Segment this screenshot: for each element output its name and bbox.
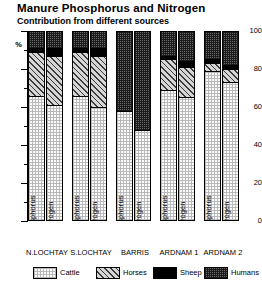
group-caption-s-lochtay: S.LOCHTAY — [66, 248, 116, 257]
segment-cattle — [47, 106, 62, 220]
bar-group-ardnam-1: PhosphorusNitrogen — [160, 31, 198, 221]
segment-sheep — [47, 49, 62, 57]
chart-legend: CattleHorsesSheepHumans — [0, 266, 262, 284]
bar-group-ardnam-2: PhosphorusNitrogen — [204, 31, 242, 221]
y-tick-minor — [24, 164, 27, 165]
y-tick-0 — [21, 221, 27, 222]
group-caption-barris: BARRIS — [110, 248, 160, 257]
segment-cattle — [29, 97, 44, 221]
legend-label-cattle: Cattle — [60, 268, 80, 277]
segment-cattle — [117, 112, 132, 220]
y-tick-40 — [21, 145, 27, 146]
segment-cattle — [73, 97, 88, 221]
segment-humans — [135, 31, 150, 131]
chart-page: Manure Phosphorus and Nitrogen Contribut… — [0, 0, 262, 293]
legend-item-horses[interactable]: Horses — [96, 266, 147, 279]
bar-ardnam-2-phosphorus[interactable]: Phosphorus — [204, 31, 221, 221]
y-tick-80 — [21, 69, 27, 70]
segment-horses — [205, 64, 220, 72]
segment-sheep — [223, 66, 238, 70]
legend-swatch-sheep — [153, 267, 177, 279]
y-tick-60 — [21, 107, 27, 108]
y-tick-20 — [21, 183, 27, 184]
bar-barris-nitrogen[interactable]: Nitrogen — [134, 31, 151, 221]
bar-group-n-lochtay: PhosphorusNitrogen — [28, 31, 66, 221]
chart-subtitle: Contribution from different sources — [17, 16, 169, 26]
bar-n-lochtay-nitrogen[interactable]: Nitrogen — [46, 31, 63, 221]
group-caption-n-lochtay: N.LOCHTAY — [22, 248, 72, 257]
segment-cattle — [91, 108, 106, 220]
legend-swatch-cattle — [33, 267, 57, 279]
y-tick-100 — [21, 31, 27, 32]
legend-item-humans[interactable]: Humans — [204, 266, 259, 279]
segment-humans — [205, 31, 220, 60]
segment-horses — [223, 70, 238, 83]
segment-sheep — [205, 60, 220, 64]
segment-cattle — [223, 83, 238, 220]
group-caption-ardnam-1: ARDNAM 1 — [154, 248, 204, 257]
bar-ardnam-1-phosphorus[interactable]: Phosphorus — [160, 31, 177, 221]
bar-s-lochtay-nitrogen[interactable]: Nitrogen — [90, 31, 107, 221]
segment-cattle — [135, 131, 150, 220]
segment-sheep — [29, 49, 44, 53]
segment-horses — [161, 60, 176, 90]
segment-sheep — [91, 49, 106, 57]
y-axis-unit-label: % — [0, 40, 22, 49]
bar-group-barris: PhosphorusNitrogen — [116, 31, 154, 221]
segment-horses — [73, 53, 88, 97]
segment-cattle — [179, 98, 194, 220]
legend-swatch-humans — [204, 267, 228, 279]
segment-sheep — [161, 57, 176, 61]
plot-area: PhosphorusNitrogenPhosphorusNitrogenPhos… — [28, 31, 256, 221]
segment-humans — [117, 31, 132, 112]
segment-cattle — [161, 91, 176, 220]
bar-ardnam-2-nitrogen[interactable]: Nitrogen — [222, 31, 239, 221]
legend-item-cattle[interactable]: Cattle — [33, 266, 80, 279]
legend-label-sheep: Sheep — [180, 268, 202, 277]
chart-title: Manure Phosphorus and Nitrogen — [17, 2, 205, 14]
segment-horses — [179, 68, 194, 98]
segment-humans — [47, 31, 62, 49]
segment-humans — [179, 31, 194, 62]
y-tick-minor — [24, 202, 27, 203]
segment-sheep — [179, 62, 194, 68]
segment-humans — [29, 31, 44, 49]
bar-barris-phosphorus[interactable]: Phosphorus — [116, 31, 133, 221]
segment-horses — [91, 57, 106, 108]
legend-swatch-horses — [96, 267, 120, 279]
bar-n-lochtay-phosphorus[interactable]: Phosphorus — [28, 31, 45, 221]
bar-s-lochtay-phosphorus[interactable]: Phosphorus — [72, 31, 89, 221]
segment-sheep — [73, 49, 88, 53]
segment-humans — [73, 31, 88, 49]
y-tick-minor — [24, 50, 27, 51]
group-caption-ardnam-2: ARDNAM 2 — [198, 248, 248, 257]
segment-horses — [47, 57, 62, 106]
y-tick-minor — [24, 88, 27, 89]
y-tick-minor — [24, 126, 27, 127]
legend-label-horses: Horses — [123, 268, 147, 277]
legend-item-sheep[interactable]: Sheep — [153, 266, 202, 279]
legend-label-humans: Humans — [231, 268, 259, 277]
segment-cattle — [205, 72, 220, 220]
segment-humans — [223, 31, 238, 66]
bar-ardnam-1-nitrogen[interactable]: Nitrogen — [178, 31, 195, 221]
segment-horses — [29, 53, 44, 97]
segment-humans — [161, 31, 176, 57]
segment-humans — [91, 31, 106, 49]
bar-group-s-lochtay: PhosphorusNitrogen — [72, 31, 110, 221]
